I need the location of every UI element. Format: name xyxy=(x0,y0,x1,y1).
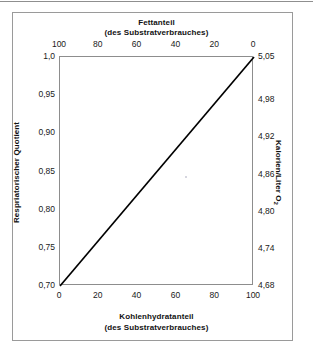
bottom-tick-60: 60 xyxy=(158,290,192,300)
right-tick-4-74: 4,74 xyxy=(258,243,292,253)
top-axis-title-line2: (des Substratverbrauches) xyxy=(0,28,313,37)
bottom-tick-80: 80 xyxy=(197,290,231,300)
left-tick-1-0: 1,0 xyxy=(21,51,55,61)
data-line-svg xyxy=(59,56,255,287)
bottom-tick-100: 100 xyxy=(236,290,270,300)
top-tick-0: 0 xyxy=(236,39,270,49)
top-axis-title-line1: Fettanteil xyxy=(0,18,313,27)
top-tick-60: 60 xyxy=(120,39,154,49)
left-axis-title: Respriatorischer Quotient xyxy=(12,73,21,273)
top-tick-40: 40 xyxy=(158,39,192,49)
stray-speck xyxy=(185,176,187,178)
left-tick-0-80: 0,80 xyxy=(21,204,55,214)
page-top-rule xyxy=(0,1,313,2)
bottom-axis-title-line1: Kohlenhydratanteil xyxy=(0,312,313,321)
top-tick-100: 100 xyxy=(42,39,76,49)
bottom-tick-20: 20 xyxy=(81,290,115,300)
right-tick-4-92: 4,92 xyxy=(258,131,292,141)
left-tick-0-90: 0,90 xyxy=(21,127,55,137)
left-tick-0-95: 0,95 xyxy=(21,89,55,99)
top-tick-20: 20 xyxy=(197,39,231,49)
bottom-tick-40: 40 xyxy=(120,290,154,300)
right-tick-4-68: 4,68 xyxy=(258,280,292,290)
right-tick-4-80: 4,80 xyxy=(258,206,292,216)
left-tick-0-85: 0,85 xyxy=(21,166,55,176)
bottom-tick-0: 0 xyxy=(42,290,76,300)
right-axis-title-subscript: 2 xyxy=(273,202,279,205)
right-tick-5-05: 5,05 xyxy=(258,51,292,61)
left-tick-0-75: 0,75 xyxy=(21,242,55,252)
top-tick-80: 80 xyxy=(81,39,115,49)
figure-root: Fettanteil (des Substratverbrauches) Koh… xyxy=(0,0,313,355)
bottom-axis-title-line2: (des Substratverbrauches) xyxy=(0,323,313,332)
plot-area xyxy=(59,56,253,285)
left-tick-0-70: 0,70 xyxy=(21,280,55,290)
right-tick-4-86: 4,86 xyxy=(258,169,292,179)
data-series-line xyxy=(60,57,254,286)
right-tick-4-98: 4,98 xyxy=(258,94,292,104)
